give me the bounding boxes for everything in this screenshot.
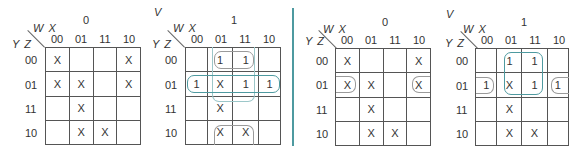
cell: 1 xyxy=(547,73,568,97)
col-header: 11 xyxy=(93,33,117,45)
cell xyxy=(117,120,141,144)
cell xyxy=(69,48,93,72)
row-header: 10 xyxy=(316,128,328,140)
cell xyxy=(476,97,497,121)
cell: X xyxy=(117,48,141,72)
row-header: 01 xyxy=(456,80,468,92)
cell: X xyxy=(207,72,233,96)
row-header: 00 xyxy=(316,55,328,67)
cell: X xyxy=(497,97,522,121)
v-value-label: 1 xyxy=(521,16,527,28)
cell: X xyxy=(207,96,233,120)
cell: 1 xyxy=(497,49,522,73)
kmap-left-v0: 0 W X Y Z 00 01 11 10 00 01 11 10 XX XXX… xyxy=(0,0,145,153)
cell: 1 xyxy=(186,72,208,96)
cell xyxy=(46,96,70,120)
cell: X xyxy=(93,120,117,144)
cell xyxy=(407,121,431,145)
cell xyxy=(336,121,360,145)
col-header: 01 xyxy=(359,34,383,46)
col-header: 01 xyxy=(209,33,233,45)
cell xyxy=(186,120,208,144)
v-value-label: 1 xyxy=(231,14,237,26)
cell xyxy=(359,49,383,73)
kmap-right-v1: V 1 W X Y Z 00 01 11 10 00 01 11 10 11 1… xyxy=(430,0,575,153)
cell: X xyxy=(407,49,431,73)
cell xyxy=(117,96,141,120)
kmap-right-v0: 0 W X Y Z 00 01 11 10 00 01 11 10 XX XXX… xyxy=(290,0,435,153)
col-header: 11 xyxy=(523,34,547,46)
row-header: 10 xyxy=(456,128,468,140)
cell xyxy=(383,73,407,97)
v-value-label: 0 xyxy=(382,16,388,28)
yz-variable-label: Y Z xyxy=(305,35,325,47)
cell xyxy=(383,97,407,121)
col-header: 10 xyxy=(547,34,571,46)
cell xyxy=(93,72,117,96)
col-header: 10 xyxy=(407,34,431,46)
cell: X xyxy=(336,49,360,73)
cell: X xyxy=(522,121,547,145)
col-header: 11 xyxy=(233,33,257,45)
cell: X xyxy=(497,73,522,97)
v-variable-label: V xyxy=(154,6,161,18)
cell xyxy=(259,48,281,72)
cell: 1 xyxy=(259,72,281,96)
cell xyxy=(522,97,547,121)
cell xyxy=(186,96,208,120)
col-header: 11 xyxy=(383,34,407,46)
cell xyxy=(476,121,497,145)
cell: X xyxy=(383,121,407,145)
cell: X xyxy=(207,120,233,144)
cell xyxy=(93,48,117,72)
col-header: 00 xyxy=(335,34,359,46)
kmap-grid: 11 1X11 X XX xyxy=(475,48,569,146)
cell xyxy=(186,48,208,72)
row-header: 11 xyxy=(316,104,327,116)
row-header: 00 xyxy=(25,54,37,66)
row-header: 01 xyxy=(165,79,177,91)
row-header: 01 xyxy=(25,79,37,91)
col-header: 10 xyxy=(257,33,281,45)
cell xyxy=(259,120,281,144)
cell: X xyxy=(69,120,93,144)
row-header: 00 xyxy=(165,54,177,66)
cell: X xyxy=(359,97,383,121)
row-header: 10 xyxy=(25,127,37,139)
cell xyxy=(547,121,568,145)
cell xyxy=(259,96,281,120)
row-header: 01 xyxy=(316,79,328,91)
v-value-label: 0 xyxy=(83,14,89,26)
cell: X xyxy=(46,72,70,96)
cell xyxy=(46,120,70,144)
cell xyxy=(383,49,407,73)
cell: 1 xyxy=(476,73,497,97)
cell: 1 xyxy=(233,48,259,72)
kmap-grid: XX XXX X XX xyxy=(335,48,431,146)
row-header: 11 xyxy=(456,104,467,116)
cell: 1 xyxy=(233,72,259,96)
cell: 1 xyxy=(522,73,547,97)
cell xyxy=(476,49,497,73)
cell xyxy=(547,97,568,121)
col-header: 00 xyxy=(45,33,69,45)
cell: X xyxy=(336,73,360,97)
cell: X xyxy=(407,73,431,97)
cell xyxy=(93,96,117,120)
row-header: 11 xyxy=(165,103,176,115)
kmap-left-v1: V 1 W X Y Z 00 01 11 10 00 01 11 10 11 1… xyxy=(140,0,285,153)
col-header: 01 xyxy=(499,34,523,46)
yz-variable-label: Y Z xyxy=(152,38,172,50)
row-header: 11 xyxy=(25,103,36,115)
cell xyxy=(547,49,568,73)
cell: 1 xyxy=(522,49,547,73)
cell: X xyxy=(359,73,383,97)
cell: X xyxy=(69,72,93,96)
cell: 1 xyxy=(207,48,233,72)
cell: X xyxy=(69,96,93,120)
cell xyxy=(336,97,360,121)
v-variable-label: V xyxy=(446,8,453,20)
kmap-grid: XX XXX X XX xyxy=(45,47,141,145)
col-header: 00 xyxy=(185,33,209,45)
col-header: 00 xyxy=(475,34,499,46)
